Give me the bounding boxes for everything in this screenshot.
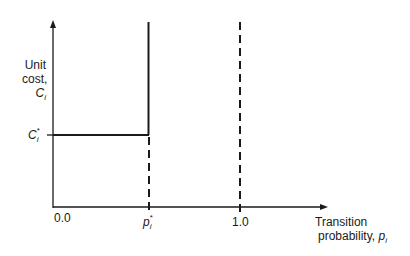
p-star-sup: * bbox=[150, 211, 153, 225]
x-axis-label-line2-wrap: probability, pi bbox=[318, 229, 387, 248]
x-axis-label-line2: probability, bbox=[318, 229, 375, 243]
y-symbol: C bbox=[36, 86, 45, 100]
y-axis-label-line1: Unit bbox=[22, 58, 46, 72]
c-star-sup: * bbox=[37, 124, 40, 138]
x-tick-0: 0.0 bbox=[54, 211, 71, 225]
x-axis-arrow-icon bbox=[320, 204, 328, 210]
x-axis-label-line1: Transition bbox=[315, 215, 387, 229]
y-axis-label-line2: cost, bbox=[22, 72, 46, 86]
y-symbol-sub: i bbox=[44, 93, 46, 102]
p-star-symbol: p bbox=[143, 215, 150, 229]
c-star-symbol: C bbox=[28, 128, 37, 142]
x-tick-1: 1.0 bbox=[232, 215, 249, 229]
y-axis-symbol: Ci bbox=[22, 86, 46, 105]
x-axis-label: Transition probability, pi bbox=[315, 215, 387, 248]
c-star-label: C*i bbox=[28, 128, 38, 147]
y-axis-label: Unit cost, Ci bbox=[22, 58, 46, 105]
x-tick-p-star: p*i bbox=[143, 215, 151, 234]
y-axis-arrow-icon bbox=[50, 20, 56, 28]
x-symbol-sub: i bbox=[385, 236, 387, 245]
